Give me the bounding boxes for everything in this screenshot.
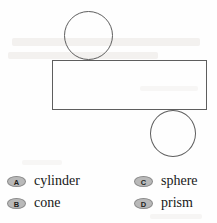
option-label-c[interactable]: sphere xyxy=(161,174,198,188)
figure-circle-top xyxy=(64,11,113,60)
answer-option-b[interactable]: B cone xyxy=(7,192,60,214)
answer-option-a[interactable]: A cylinder xyxy=(7,170,80,192)
option-letter-badge-d[interactable]: D xyxy=(134,198,153,209)
option-label-d[interactable]: prism xyxy=(161,196,193,210)
option-letter-badge-c[interactable]: C xyxy=(134,176,153,187)
question-page: A cylinder B cone C sphere D prism xyxy=(0,0,217,223)
answer-option-d[interactable]: D prism xyxy=(134,192,193,214)
figure-rectangle-body xyxy=(52,60,207,110)
option-letter-badge-a[interactable]: A xyxy=(7,176,26,187)
option-label-a[interactable]: cylinder xyxy=(34,174,80,188)
answer-options-list: A cylinder B cone C sphere D prism xyxy=(0,168,217,223)
figure-circle-bottom xyxy=(150,110,196,157)
option-letter-badge-b[interactable]: B xyxy=(7,198,26,209)
option-label-b[interactable]: cone xyxy=(34,196,60,210)
geometry-figure xyxy=(0,0,217,162)
answer-option-c[interactable]: C sphere xyxy=(134,170,198,192)
